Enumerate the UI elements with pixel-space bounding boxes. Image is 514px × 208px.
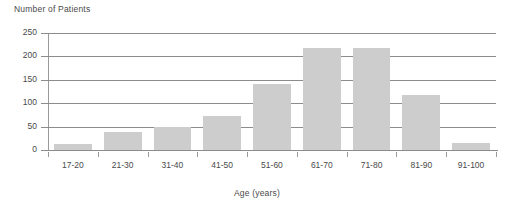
bar-slot [197, 33, 247, 150]
y-axis-tick-label: 150 [5, 74, 37, 84]
bar [452, 143, 490, 150]
bar [253, 84, 291, 150]
bar-slot [48, 33, 98, 150]
y-axis-tick-label: 250 [5, 27, 37, 37]
bar-slot [297, 33, 347, 150]
x-axis-tick-label: 61-70 [297, 160, 347, 170]
bar-slot [396, 33, 446, 150]
y-axis-title: Number of Patients [14, 4, 90, 14]
x-axis-tick [396, 152, 397, 157]
x-axis-tick [48, 152, 49, 157]
bar [154, 127, 192, 150]
x-axis-tick [496, 152, 497, 157]
x-axis-tick-label: 71-80 [347, 160, 397, 170]
x-axis-tick [347, 152, 348, 157]
x-axis-tick-label: 41-50 [197, 160, 247, 170]
bar-slot [148, 33, 198, 150]
x-axis-line [48, 150, 498, 151]
y-axis-tick [41, 150, 48, 151]
bar-slot [446, 33, 496, 150]
y-axis-tick-label: 200 [5, 50, 37, 60]
y-axis-tick [41, 33, 48, 34]
x-axis-title: Age (years) [0, 188, 514, 198]
y-axis-tick-label: 0 [5, 144, 37, 154]
x-axis-tick-label: 17-20 [48, 160, 98, 170]
plot-area [48, 33, 496, 150]
y-axis-tick-label: 50 [5, 121, 37, 131]
x-axis-tick [446, 152, 447, 157]
bar [104, 132, 142, 150]
bar-slot [98, 33, 148, 150]
y-axis-tick [41, 56, 48, 57]
y-axis-tick-label: 100 [5, 97, 37, 107]
x-axis-tick-label: 91-100 [446, 160, 496, 170]
bar-slot [347, 33, 397, 150]
x-axis-tick-label: 81-90 [396, 160, 446, 170]
bar [402, 95, 440, 150]
bar-series [48, 33, 496, 150]
x-axis-tick [247, 152, 248, 157]
bar [303, 48, 341, 150]
bar [353, 48, 391, 150]
bar-chart-figure: Number of Patients 050100150200250 17-20… [0, 0, 514, 208]
y-axis-tick [41, 80, 48, 81]
x-axis-tick-label: 21-30 [98, 160, 148, 170]
x-axis-tick-label: 51-60 [247, 160, 297, 170]
y-axis-tick [41, 127, 48, 128]
x-axis-tick [197, 152, 198, 157]
x-axis-tick [98, 152, 99, 157]
y-axis-tick [41, 103, 48, 104]
bar [203, 116, 241, 150]
x-axis-tick-label: 31-40 [148, 160, 198, 170]
bar-slot [247, 33, 297, 150]
x-axis-tick [297, 152, 298, 157]
x-axis-tick [148, 152, 149, 157]
